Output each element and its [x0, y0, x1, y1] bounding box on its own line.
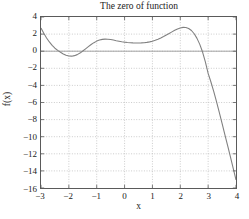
y-tick-label: −2 — [27, 63, 37, 72]
y-tick-label: −6 — [27, 98, 37, 107]
x-tick-label: 2 — [171, 192, 191, 201]
y-tick-label: −8 — [27, 115, 37, 124]
y-tick-label: −14 — [23, 167, 37, 176]
y-tick-label: −12 — [23, 150, 37, 159]
x-tick-label: −2 — [58, 192, 78, 201]
y-tick-label: −10 — [23, 133, 37, 142]
x-tick-label: 0 — [114, 192, 134, 201]
x-tick-label: 3 — [199, 192, 219, 201]
y-tick-label: 2 — [33, 29, 38, 38]
y-tick-label: −4 — [27, 81, 37, 90]
chart-figure: The zero of function 420−2−4−6−8−10−12−1… — [0, 0, 249, 219]
y-axis-label: f(x) — [2, 81, 12, 117]
x-axis-label: x — [40, 201, 237, 211]
x-tick-label: 1 — [143, 192, 163, 201]
x-tick-label: −3 — [30, 192, 50, 201]
x-tick-label: −1 — [86, 192, 106, 201]
x-tick-label: 4 — [227, 192, 247, 201]
y-tick-label: 4 — [33, 12, 38, 21]
tick-label-layer: 420−2−4−6−8−10−12−14−16−3−2−101234 — [0, 0, 249, 219]
y-tick-label: 0 — [33, 46, 38, 55]
